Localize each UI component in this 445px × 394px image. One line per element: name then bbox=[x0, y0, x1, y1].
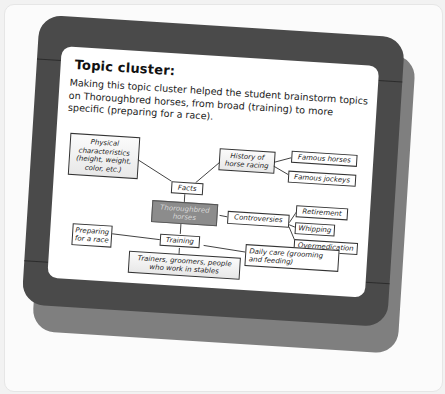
node-whipping: Whipping bbox=[295, 222, 336, 236]
node-preparing-for-a-race: Preparing for a race bbox=[71, 223, 112, 247]
frame-seam bbox=[37, 59, 61, 62]
node-training: Training bbox=[160, 234, 201, 248]
frame-seam bbox=[366, 282, 390, 285]
node-physical-characteristics: Physical characteristics (height, weight… bbox=[68, 133, 140, 179]
frame-seam bbox=[378, 80, 402, 83]
node-thoroughbred-horses-central: Thoroughbred horses bbox=[151, 200, 218, 226]
node-facts: Facts bbox=[171, 181, 204, 195]
topic-cluster-card: Topic cluster: Making this topic cluster… bbox=[21, 15, 409, 338]
node-history-of-horse-racing: History of horse racing bbox=[218, 148, 275, 173]
frame-seam bbox=[24, 260, 48, 263]
card-panel: Topic cluster: Making this topic cluster… bbox=[47, 46, 379, 298]
